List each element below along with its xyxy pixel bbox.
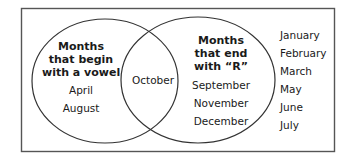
outside-item: March [280,62,334,80]
vowel-set-item: August [42,99,120,117]
r-ending-set-title: Months that end with “R” [186,34,256,73]
intersection-items: October [125,74,181,87]
outside-item: July [280,116,334,134]
vowel-set-items: April August [42,81,120,117]
outside-items: January February March May June July [280,26,334,134]
r-ending-set-title-line: that end [186,47,256,60]
outside-item: June [280,98,334,116]
r-ending-set-item: September [186,76,256,94]
vowel-set-title-line: with a vowel [42,66,120,79]
vowel-set-item: April [42,81,120,99]
r-ending-set-title-line: Months [186,34,256,47]
r-ending-set-title-line: with “R” [186,60,256,73]
r-ending-set-item: November [186,94,256,112]
intersection-item: October [125,74,181,87]
outside-item: February [280,44,334,62]
r-ending-set-item: December [186,112,256,130]
outside-item: May [280,80,334,98]
outside-item: January [280,26,334,44]
vowel-set-title-line: that begin [42,53,120,66]
vowel-set-title: Months that begin with a vowel [42,40,120,79]
vowel-set-title-line: Months [42,40,120,53]
r-ending-set-items: September November December [186,76,256,130]
